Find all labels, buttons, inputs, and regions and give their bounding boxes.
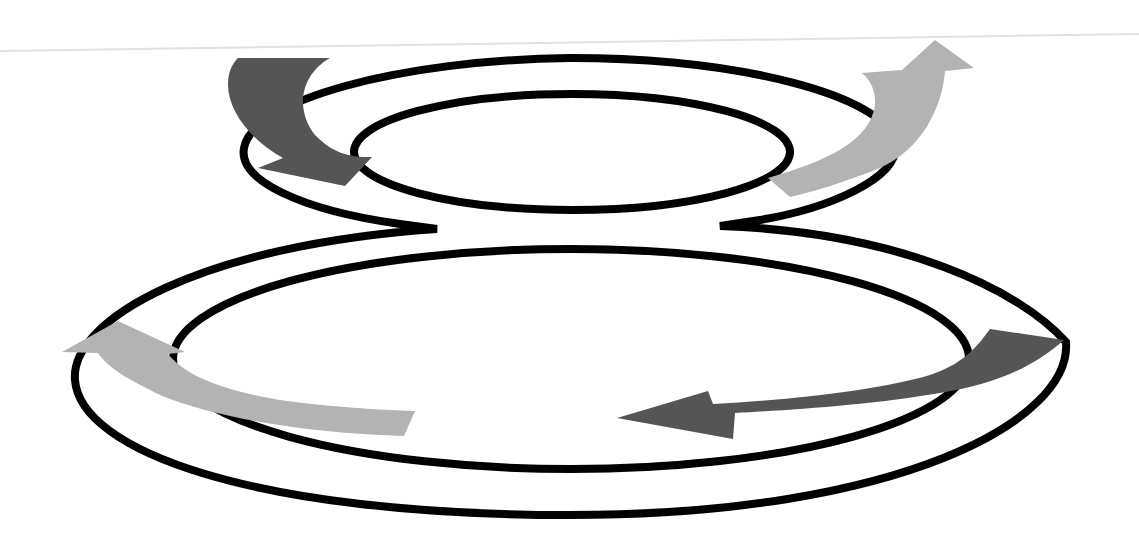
- arrow-upper-right-light: [768, 40, 974, 197]
- figure-eight-cycle-diagram: [0, 0, 1139, 556]
- top-guide-line: [0, 34, 1139, 51]
- lower-inner-loop: [173, 249, 969, 469]
- upper-inner-loop: [354, 94, 790, 210]
- arrow-lower-right-dark: [617, 329, 1064, 439]
